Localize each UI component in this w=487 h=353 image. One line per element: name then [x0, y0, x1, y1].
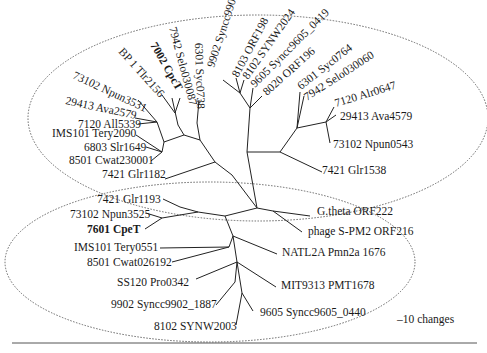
leaf-label: 73102 Npun3525 — [70, 208, 150, 221]
leaf-label: 7421 Glr1193 — [97, 193, 161, 205]
phylogenetic-tree: 73102 Npun3531BP 1 Tlr21567002 CpcT7942 … — [0, 0, 487, 353]
leaf-branch — [163, 199, 180, 207]
leaf-label: 8501 Cwat026192 — [87, 256, 172, 268]
leaf-label: IMS101 Tery0551 — [74, 241, 159, 254]
leaf-branch — [236, 293, 242, 325]
leaf-label: 9605 Syncc9605_0440 — [260, 306, 366, 319]
branch — [178, 125, 184, 135]
branch — [157, 122, 164, 142]
leaf-branch — [196, 262, 237, 279]
leaf-label: 7601 CpeT — [87, 223, 141, 236]
scale-bar: –10 changes — [396, 313, 455, 326]
branch — [247, 108, 250, 152]
branch — [180, 207, 198, 212]
leaf-branch — [216, 282, 235, 305]
leaf-label: 73102 Npun0543 — [333, 138, 413, 151]
branch — [164, 135, 184, 142]
leaf-labels: 73102 Npun3531BP 1 Tlr21567002 CpcT7942 … — [52, 0, 414, 332]
branch — [229, 236, 233, 247]
leaf-label: 8501 Cwat230001 — [69, 154, 154, 166]
leaf-label: SS120 Pro0342 — [117, 276, 189, 288]
branch — [215, 162, 232, 175]
branch — [200, 140, 215, 162]
branch — [237, 262, 242, 293]
leaf-label: IMS101 Tery2090 — [52, 127, 137, 140]
leaf-label: G.theta ORF222 — [317, 205, 393, 217]
leaf-branch — [160, 247, 229, 248]
branch — [197, 123, 200, 140]
branch — [240, 93, 250, 108]
leaf-label: 7120 Alr0647 — [333, 79, 398, 109]
branch — [198, 212, 225, 216]
leaf-branch — [242, 293, 253, 311]
leaf-branch — [172, 247, 229, 262]
branch — [162, 142, 164, 152]
branch — [247, 152, 257, 208]
leaf-branch — [146, 147, 162, 152]
tree-branches — [157, 93, 326, 293]
leaf-branch — [326, 122, 330, 143]
leaf-branch — [237, 262, 276, 287]
branch — [184, 135, 200, 140]
leaf-branch — [175, 98, 180, 113]
branch — [232, 175, 257, 208]
branch — [233, 236, 237, 262]
branch — [225, 216, 233, 236]
leaf-branch — [165, 162, 215, 179]
leaf-label: 8102 SYNW2003 — [154, 320, 237, 332]
branch — [297, 122, 326, 128]
leaf-label: 7421 Glr1538 — [322, 164, 386, 176]
branch — [257, 208, 273, 211]
branch — [280, 128, 297, 152]
leaf-branch — [233, 236, 277, 254]
scale-bar-label: –10 changes — [396, 313, 455, 326]
leaf-label: NATL2A Pmn2a 1676 — [282, 246, 386, 258]
leaf-branch — [280, 152, 322, 172]
branch — [235, 262, 237, 282]
leaf-label: MIT9313 PMT1678 — [281, 279, 375, 291]
leaf-label: 29413 Ava4579 — [340, 110, 413, 122]
leaf-label: phage S-PM2 ORF216 — [308, 225, 414, 238]
leaf-label: 6803 Slr1649 — [84, 141, 147, 153]
leaf-branch — [240, 80, 244, 93]
leaf-label: 7421 Glr1182 — [102, 168, 166, 180]
leaf-label: 9902 Syncc9902_1887 — [111, 298, 217, 311]
branch — [225, 208, 257, 216]
